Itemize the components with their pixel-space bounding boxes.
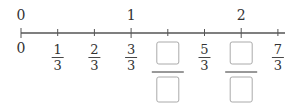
fraction-numerator: 5 [200,42,208,57]
numerator-answer-box [230,42,252,64]
fraction-numerator: 7 [274,42,282,57]
bottom-label-whole: 0 [17,40,26,56]
top-label-0: 0 [17,7,26,23]
fraction-denominator: 3 [200,58,208,73]
fraction-denominator: 3 [274,58,282,73]
top-label-1: 1 [127,7,136,23]
denominator-answer-box [157,77,179,102]
numerator-answer-box [157,42,179,64]
fraction-numerator: 1 [54,42,62,57]
fraction-denominator: 3 [127,58,135,73]
fraction-numerator: 2 [90,42,98,57]
fraction-denominator: 3 [90,58,98,73]
fraction-numerator: 3 [127,42,135,57]
number-line-diagram: 01201323335373 [0,0,298,106]
top-label-2: 2 [237,7,246,23]
fraction-denominator: 3 [54,58,62,73]
denominator-answer-box [230,77,252,102]
